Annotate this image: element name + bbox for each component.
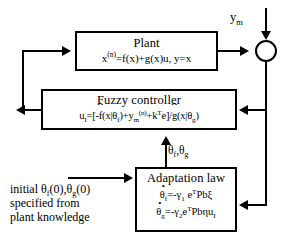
initial-conditions-line xyxy=(68,177,126,179)
adaptation-law-equation-2: •θg=-γ2eTPbηuI xyxy=(137,206,235,217)
initial-conditions-line-2: specified from xyxy=(10,196,80,210)
fuzzy-controller-block: Fuzzy controller uI=[-f(x|θf)+ym(n)+kTe]… xyxy=(41,89,237,130)
ym-input-arrowhead xyxy=(261,31,271,40)
error-to-fuzzy-line xyxy=(248,109,267,111)
plant-output-arrowhead xyxy=(240,46,249,56)
theta-feedback-line xyxy=(165,141,167,169)
fuzzy-controller-title: Fuzzy controller xyxy=(43,94,235,107)
plant-input-arrowhead xyxy=(62,46,71,56)
plant-block-equation: x(n)=f(x)+g(x)u, y=x xyxy=(77,53,216,65)
ym-reference-label: ym xyxy=(230,10,243,24)
error-to-fuzzy-arrowhead xyxy=(239,105,248,115)
error-signal-vertical-line xyxy=(265,60,267,206)
block-diagram-canvas: Plant x(n)=f(x)+g(x)u, y=x Fuzzy control… xyxy=(0,0,287,251)
initial-conditions-arrowhead xyxy=(124,173,133,183)
initial-conditions-line-1: initial θf(0),θg(0) xyxy=(10,182,90,196)
initial-conditions-label: initial θf(0),θg(0) specified from plant… xyxy=(10,182,90,224)
error-to-adaptation-line xyxy=(248,204,267,206)
controller-feedback-to-plant-line xyxy=(22,50,66,52)
initial-conditions-line-3: plant knowledge xyxy=(10,210,90,224)
fuzzy-controller-equation: uI=[-f(x|θf)+ym(n)+kTe]/g(x|θg) xyxy=(43,110,235,121)
plant-block-title: Plant xyxy=(77,37,216,50)
adaptation-law-block: Adaptation law •θf=-γ1 eTPbξ •θg=-γ2eTPb… xyxy=(135,167,237,232)
theta-feedback-label: θf,θg xyxy=(168,144,188,157)
controller-feedback-vertical-line xyxy=(22,50,24,111)
adaptation-law-title: Adaptation law xyxy=(137,172,235,185)
summing-junction-node xyxy=(255,40,277,62)
adaptation-law-equation-1: •θf=-γ1 eTPbξ xyxy=(137,189,235,200)
error-to-adaptation-arrowhead xyxy=(239,200,248,210)
plant-block: Plant x(n)=f(x)+g(x)u, y=x xyxy=(75,31,218,71)
